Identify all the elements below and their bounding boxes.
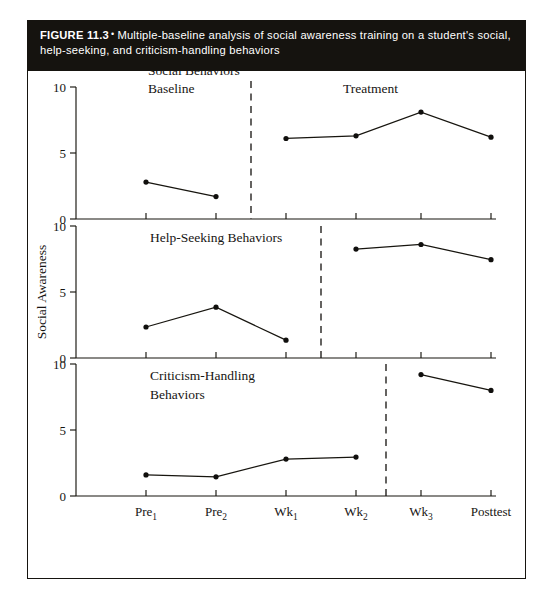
x-axis-label-4: Wk2: [344, 504, 368, 522]
panel-1-series-2-point-1: [283, 136, 288, 141]
panel-2-series-2-point-1: [353, 247, 358, 252]
panel-1-series-2-point-4: [488, 135, 493, 140]
panel-2-y-tick-label-10: 10: [53, 219, 66, 234]
panel-3-y-tick-label-0: 0: [60, 489, 67, 504]
panel-2-series-1-point-1: [143, 324, 148, 329]
panel-1-label: Social Behaviors: [148, 71, 240, 78]
panel-3-series-2-point-2: [488, 388, 493, 393]
panel-1-series-1-point-2: [213, 194, 218, 199]
figure-caption-text: FIGURE 11.3•Multiple-baseline analysis o…: [40, 27, 513, 59]
panel-3-y-tick-label-5: 5: [60, 423, 67, 438]
panel-2-series-1-point-2: [213, 305, 218, 310]
multiple-baseline-chart: Social Awareness0510Social Behaviors0510…: [28, 71, 524, 577]
panel-3-series-2-line: [421, 375, 491, 391]
panel-3-label: Criticism-Handling: [150, 368, 255, 383]
panel-2-series-2-point-2: [418, 242, 423, 247]
figure-caption-bar: FIGURE 11.3•Multiple-baseline analysis o…: [27, 20, 526, 70]
treatment-phase-label: Treatment: [343, 81, 398, 96]
x-axis-label-5: Wk3: [409, 504, 433, 522]
y-axis-title: Social Awareness: [34, 245, 49, 339]
panel-3-series-1-point-2: [213, 474, 218, 479]
panel-1-series-1-line: [146, 182, 216, 197]
panel-2-label: Help-Seeking Behaviors: [150, 230, 282, 245]
panel-3-y-tick-label-10: 10: [53, 357, 66, 372]
x-axis-label-3: Wk1: [274, 504, 298, 522]
panel-1-series-2-line: [286, 112, 491, 138]
panel-1-y-tick-label-10: 10: [53, 80, 66, 95]
panel-3-series-1-line: [146, 457, 356, 477]
plot-frame: Social Awareness0510Social Behaviors0510…: [27, 70, 526, 579]
panel-1-series-2-point-3: [418, 109, 423, 114]
panel-3-series-2-point-1: [418, 372, 423, 377]
panel-1-series-1-point-1: [143, 179, 148, 184]
figure-container: FIGURE 11.3•Multiple-baseline analysis o…: [27, 20, 526, 579]
panel-1-series-2-point-2: [353, 133, 358, 138]
panel-3-label-line2: Behaviors: [150, 387, 205, 402]
baseline-phase-label: Baseline: [148, 81, 195, 96]
panel-2-series-2-point-3: [488, 257, 493, 262]
panel-3-series-1-point-1: [143, 472, 148, 477]
panel-2-y-tick-label-5: 5: [60, 285, 67, 300]
x-axis-label-1: Pre1: [135, 504, 157, 522]
x-axis-label-6: Posttest: [471, 504, 512, 519]
panel-1-y-tick-label-5: 5: [60, 146, 67, 161]
x-axis-label-2: Pre2: [205, 504, 227, 522]
panel-3-series-1-point-3: [283, 456, 288, 461]
panel-2-series-2-line: [356, 244, 491, 259]
panel-2-series-1-point-3: [283, 338, 288, 343]
panel-2-series-1-line: [146, 307, 286, 340]
panel-3-series-1-point-4: [353, 454, 358, 459]
figure-number: FIGURE 11.3: [40, 29, 109, 41]
